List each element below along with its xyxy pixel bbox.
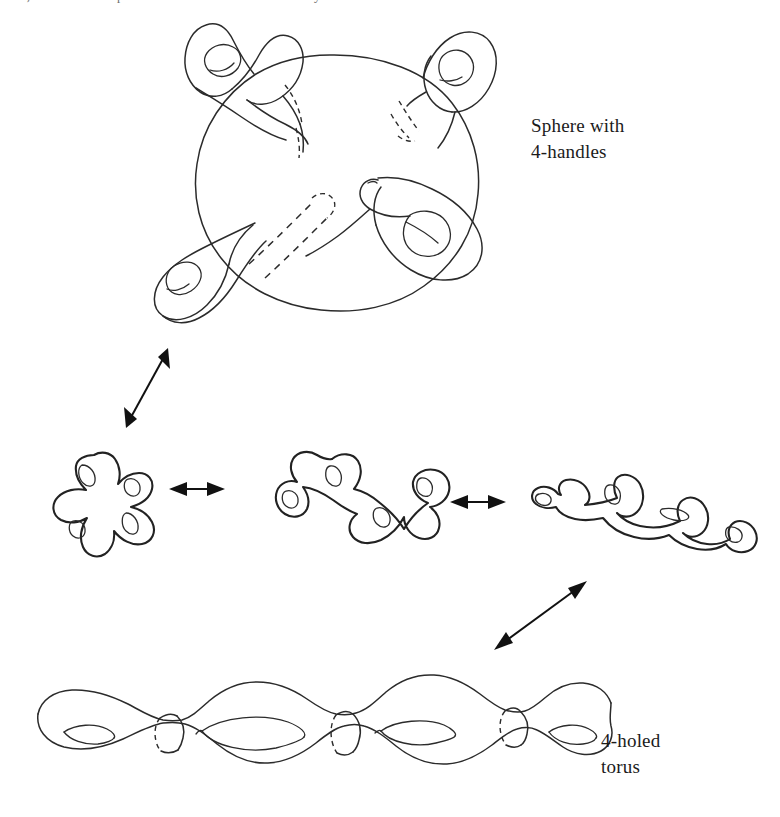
torus-neck-2-cap-top xyxy=(336,711,353,715)
handle-top-right-hidden-3 xyxy=(398,136,415,141)
torus-hole-3-tail xyxy=(375,730,381,733)
handle-bottom-right-hole-inner xyxy=(406,222,438,243)
torus-neck-3-back xyxy=(500,711,506,745)
handle-bottom-left-lower xyxy=(163,241,266,323)
torus-hole-1-upper xyxy=(64,725,115,738)
torus-neck-3-front xyxy=(521,712,528,745)
figure-page: and, since it is a compact oriented surf… xyxy=(0,0,780,817)
label-four-holed-torus: 4-holed torus xyxy=(601,728,660,780)
torus-hole-2-lower xyxy=(202,731,304,750)
handle-top-right-body xyxy=(424,56,452,112)
cross-hole-top-right xyxy=(124,479,140,496)
handle-bottom-right-top xyxy=(376,177,482,280)
handle-top-right-hidden-1 xyxy=(399,101,419,131)
torus-hole-1-lower xyxy=(64,732,114,744)
torus-top-outline xyxy=(38,675,611,721)
handle-top-left-hidden-arc-2 xyxy=(296,128,299,158)
handle-bottom-left-hole-tail xyxy=(167,284,189,290)
torus-neck-1-cap-top xyxy=(160,714,177,718)
handle-top-left-outer xyxy=(185,24,254,96)
handle-bottom-right-lower-arc xyxy=(306,209,370,256)
handle-top-right-tube-left xyxy=(407,92,426,106)
torus-hole-4-lower xyxy=(549,732,596,744)
handle-top-left-neck-right xyxy=(300,124,303,152)
arrow-linear-to-torus xyxy=(494,581,587,650)
arrow-zigzag-to-linear xyxy=(450,495,506,509)
torus-neck-1-cap-bottom xyxy=(161,750,178,753)
handle-bottom-left-hole xyxy=(166,262,201,294)
hidden-tube-cap xyxy=(312,194,335,218)
hidden-tube-lower-edge xyxy=(265,217,328,278)
torus-hole-3-lower xyxy=(381,731,455,745)
handle-top-right-hole-tail xyxy=(440,77,462,81)
arrow-sphere-to-cross xyxy=(124,348,170,428)
zigzag-hole-1 xyxy=(326,466,342,486)
cross-hole-top-left xyxy=(79,465,95,486)
linear-hole-4 xyxy=(726,527,742,543)
handle-top-left-tube-lower xyxy=(196,88,286,140)
handle-bottom-left-body xyxy=(229,225,253,264)
handle-top-left-body xyxy=(232,35,303,104)
handle-top-left-hole xyxy=(205,45,241,77)
torus-neck-3-cap-bottom xyxy=(506,745,521,747)
arrow-cross-to-zigzag xyxy=(169,482,225,496)
hidden-tube-upper-edge xyxy=(249,201,314,264)
figure-four-holed-torus xyxy=(38,675,612,764)
torus-hole-3-upper xyxy=(381,721,456,736)
handle-bottom-right-hole xyxy=(403,211,450,256)
cross-hole-bottom-right xyxy=(122,513,138,534)
torus-neck-1-front xyxy=(177,716,184,750)
handle-bottom-right-nub xyxy=(368,182,377,184)
torus-neck-3-cap-top xyxy=(505,708,521,712)
handle-bottom-right-outer xyxy=(360,179,410,216)
handle-top-right-hidden-2 xyxy=(391,114,409,138)
topology-figure-canvas: cross form --> zigzag --> xyxy=(0,0,780,817)
handle-top-right-outer xyxy=(423,32,496,112)
torus-hole-4-upper xyxy=(549,725,597,738)
torus-neck-2-cap-bottom xyxy=(337,752,353,755)
torus-neck-1-back xyxy=(155,718,161,751)
torus-neck-2-front xyxy=(353,714,360,752)
label-sphere-with-handles: Sphere with 4-handles xyxy=(531,113,625,165)
page-header-strip: and, since it is a compact oriented surf… xyxy=(0,0,780,9)
handle-top-left-tube-upper xyxy=(247,100,308,144)
handle-bottom-left-outer xyxy=(154,223,255,320)
handle-top-left-neck-left xyxy=(283,96,300,124)
figure-sphere-with-4-handles xyxy=(154,24,496,323)
zigzag-outline xyxy=(276,452,450,543)
figure-zigzag-4-lobes xyxy=(276,452,450,543)
figure-linear-4-lobes xyxy=(532,475,757,552)
cross-outline xyxy=(53,453,154,557)
torus-hole-2-tail xyxy=(196,730,202,734)
cross-hole-bottom-left xyxy=(69,521,85,538)
zigzag-hole-4 xyxy=(417,478,433,496)
sphere-outline xyxy=(195,55,478,311)
figure-cross-4-lobes xyxy=(53,453,154,557)
zigzag-outline-close xyxy=(317,455,332,459)
torus-neck-2-back xyxy=(331,715,337,753)
torus-bottom-outline xyxy=(38,703,612,764)
handle-top-right-hole xyxy=(439,50,474,85)
handle-top-right-tube-down xyxy=(438,112,455,148)
header-text: and, since it is a compact oriented surf… xyxy=(8,0,321,4)
handle-top-left-hole-inner xyxy=(210,63,234,71)
linear-hole-1 xyxy=(535,493,551,505)
linear-hole-3 xyxy=(660,508,688,520)
linear-outline xyxy=(532,475,757,552)
handle-top-left-hidden-arc xyxy=(285,85,302,124)
handle-bottom-right-inner-loop xyxy=(374,187,381,225)
torus-hole-2-upper xyxy=(202,717,305,737)
zigzag-hole-3 xyxy=(373,508,390,527)
linear-hole-2 xyxy=(605,485,621,504)
zigzag-hole-2 xyxy=(282,491,298,508)
